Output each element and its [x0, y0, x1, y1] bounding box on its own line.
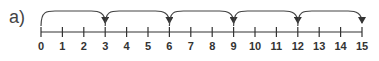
tick-label: 7 — [188, 40, 194, 52]
number-line — [41, 27, 362, 37]
tick-label: 1 — [59, 40, 65, 52]
jump-arcs — [41, 11, 362, 26]
tick-label: 2 — [81, 40, 87, 52]
tick-label: 11 — [271, 40, 283, 52]
tick-label: 9 — [231, 40, 237, 52]
tick-label: 4 — [124, 40, 131, 52]
jump-arc — [105, 11, 169, 26]
tick-label: 12 — [292, 40, 304, 52]
tick-label: 14 — [334, 40, 347, 52]
jump-arc — [234, 11, 298, 26]
number-line-diagram: 0123456789101112131415 — [0, 0, 379, 61]
tick-label: 15 — [356, 40, 368, 52]
tick-label: 3 — [102, 40, 108, 52]
jump-arc — [41, 11, 105, 26]
tick-label: 5 — [145, 40, 151, 52]
jump-arc — [298, 11, 362, 26]
tick-label: 10 — [249, 40, 261, 52]
jump-arc — [169, 11, 233, 26]
tick-label: 6 — [166, 40, 172, 52]
tick-label: 13 — [313, 40, 325, 52]
tick-labels: 0123456789101112131415 — [38, 40, 368, 52]
tick-label: 0 — [38, 40, 44, 52]
tick-label: 8 — [209, 40, 215, 52]
